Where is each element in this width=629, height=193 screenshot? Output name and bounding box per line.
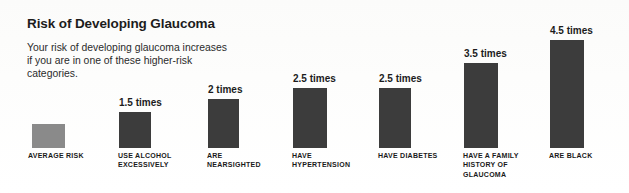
bar [550,40,584,148]
bar-group: 4.5 times [550,40,584,148]
bar-group: 3.5 times [464,63,498,148]
bar-value-label: 2.5 times [293,73,336,84]
bar [293,88,327,148]
bar-value-label: 3.5 times [464,48,507,59]
bar-chart-plot-area: AVERAGE RISK1.5 timesUSE ALCOHOL EXCESSI… [0,0,629,193]
bar-value-label: 4.5 times [550,25,593,36]
bar-group: 1.5 times [119,112,151,148]
bar-group: 2.5 times [293,88,327,148]
bar-category-label: USE ALCOHOL EXCESSIVELY [118,151,180,170]
bar [119,112,151,148]
bar-category-label: ARE NEARSIGHTED [207,151,269,170]
bar-category-label: ARE BLACK [549,151,619,160]
bar-group [32,124,65,148]
bar [464,63,498,148]
bar-group: 2.5 times [379,88,411,148]
bar-category-label: HAVE HYPERTENSION [292,151,354,170]
bar-category-label: AVERAGE RISK [28,151,106,160]
bar-category-label: HAVE A FAMILY HISTORY OF GLAUCOMA [463,151,531,179]
bar-value-label: 2.5 times [379,73,422,84]
bar-value-label: 2 times [208,84,242,95]
bar-value-label: 1.5 times [119,97,162,108]
chart-canvas: Risk of Developing Glaucoma Your risk of… [0,0,629,193]
bar [32,124,65,148]
bar-category-label: HAVE DIABETES [378,151,458,160]
bar [379,88,411,148]
bar-group: 2 times [208,99,239,148]
bar [208,99,239,148]
